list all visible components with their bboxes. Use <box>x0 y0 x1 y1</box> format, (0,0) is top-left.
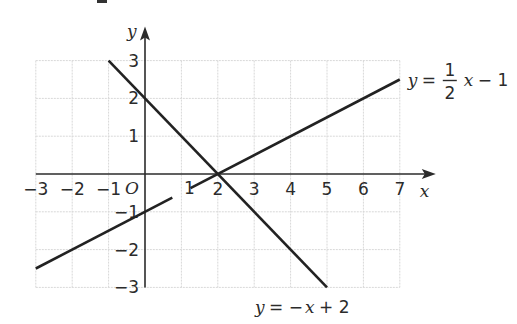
equation-rest: + 2 <box>319 297 349 317</box>
x-tick-label: 5 <box>322 179 333 199</box>
x-axis-label: x <box>420 181 430 201</box>
fraction-numerator: 1 <box>444 60 455 80</box>
equation-rest: − 1 <box>478 70 508 90</box>
x-tick-label: 6 <box>358 179 369 199</box>
x-tick-label: −1 <box>96 179 121 199</box>
line-series-half-x-minus-1 <box>191 80 400 189</box>
y-tick-label: −1 <box>114 202 139 222</box>
x-tick-label: 2 <box>212 179 223 199</box>
equation-variable: y <box>254 297 265 317</box>
x-tick-label: 4 <box>285 179 296 199</box>
equation-variable: y <box>407 70 418 90</box>
x-tick-label: −3 <box>23 179 48 199</box>
x-tick-label: 3 <box>249 179 260 199</box>
line-series-half-x-minus-1 <box>36 198 173 269</box>
equation-variable: x <box>305 297 315 317</box>
y-tick-label: 1 <box>128 126 139 146</box>
origin-label: O <box>125 178 139 198</box>
equation-variable: x <box>464 70 474 90</box>
equation-equals: = − <box>269 297 303 317</box>
equation-label-series-2: y= −x+ 2 <box>254 297 349 317</box>
y-tick-label: −3 <box>114 277 139 297</box>
equation-equals: = <box>422 70 436 90</box>
coordinate-plane: xyO−3−2−11234567321−1−2−3y=12x− 1y= −x+ … <box>0 0 517 324</box>
equation-label-series-1: y=12x− 1 <box>407 60 508 103</box>
y-axis-label: y <box>126 21 137 41</box>
y-tick-label: 3 <box>128 51 139 71</box>
y-tick-label: −2 <box>114 240 139 260</box>
fraction-denominator: 2 <box>444 83 455 103</box>
x-tick-label: 7 <box>394 179 405 199</box>
x-tick-label: −2 <box>60 179 85 199</box>
